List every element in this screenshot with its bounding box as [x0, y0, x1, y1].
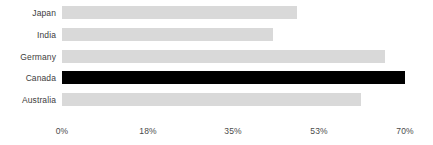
chart-row: Canada [0, 71, 433, 84]
bar-australia[interactable] [62, 93, 361, 106]
chart-row: Japan [0, 6, 433, 19]
category-label-australia: Australia [0, 95, 56, 105]
bar-japan[interactable] [62, 6, 297, 19]
category-label-japan: Japan [0, 8, 56, 18]
category-label-germany: Germany [0, 52, 56, 62]
chart-row: Germany [0, 50, 433, 63]
x-tick-label-0: 0% [56, 126, 69, 136]
x-tick-label-3: 53% [310, 126, 327, 136]
chart-row: India [0, 28, 433, 41]
bar-india[interactable] [62, 28, 273, 41]
bar-chart: Japan India Germany Canada Australia 0% … [0, 0, 433, 145]
category-label-canada: Canada [0, 73, 56, 83]
plot-area: Japan India Germany Canada Australia [0, 0, 433, 118]
x-axis: 0% 18% 35% 53% 70% [0, 118, 433, 145]
chart-row: Australia [0, 93, 433, 106]
bar-canada[interactable] [62, 71, 405, 84]
bar-germany[interactable] [62, 50, 385, 63]
x-axis-line [62, 118, 407, 119]
x-tick-label-2: 35% [224, 126, 241, 136]
category-label-india: India [0, 30, 56, 40]
x-tick-label-1: 18% [139, 126, 156, 136]
x-tick-label-4: 70% [396, 126, 413, 136]
